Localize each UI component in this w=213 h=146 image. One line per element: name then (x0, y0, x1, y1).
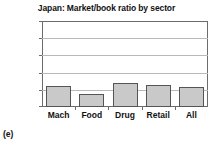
x-axis-label: All (166, 110, 213, 120)
bar-slot (179, 21, 204, 107)
plot-area: 0.02.04.06.08.010.0 (42, 21, 208, 107)
bar-slot (46, 21, 71, 107)
figure-panel: Japan: Market/book ratio by sector 0.02.… (0, 0, 213, 146)
bar (46, 86, 71, 107)
bar-slot (79, 21, 104, 107)
bar (146, 85, 171, 107)
bar (113, 83, 138, 107)
bar-slot (113, 21, 138, 107)
bar-slot (146, 21, 171, 107)
bar-series (42, 21, 208, 107)
bar (179, 87, 204, 107)
bar (79, 94, 104, 107)
panel-label: (e) (3, 129, 13, 139)
chart-title: Japan: Market/book ratio by sector (0, 3, 213, 13)
